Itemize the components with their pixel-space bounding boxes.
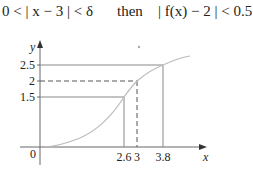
- y-tick-2: 2: [29, 74, 35, 88]
- origin-label: 0: [30, 147, 36, 161]
- function-graph: y x 0 2.5 2 1.5 2.6 3 3.8: [0, 0, 253, 176]
- y-tick-2.5: 2.5: [20, 58, 35, 72]
- x-tick-3.8: 3.8: [156, 150, 171, 164]
- x-tick-2.6: 2.6: [117, 150, 132, 164]
- y-tick-1.5: 1.5: [20, 90, 35, 104]
- y-axis-arrow-icon: [37, 40, 43, 48]
- function-curve: [45, 56, 190, 147]
- y-axis-label: y: [29, 40, 36, 54]
- x-axis-label: x: [202, 150, 209, 164]
- marker-dot: [138, 46, 140, 48]
- x-tick-3: 3: [134, 150, 140, 164]
